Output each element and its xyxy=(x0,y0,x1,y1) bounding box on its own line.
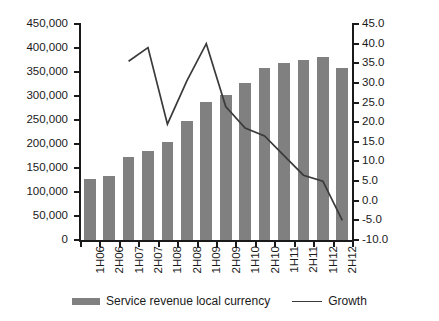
legend-label-growth: Growth xyxy=(328,294,367,308)
x-axis-label-2H10: 2H10 xyxy=(270,246,282,286)
right-axis-tick xyxy=(353,200,359,202)
left-axis-tick-label: 50,000 xyxy=(33,210,68,222)
legend-label-service-revenue: Service revenue local currency xyxy=(106,294,270,308)
left-axis-tick-label: 100,000 xyxy=(26,186,68,198)
x-axis-label-1H07: 1H07 xyxy=(134,246,146,286)
right-axis-tick-label: 5.0 xyxy=(362,175,378,187)
left-axis-tick-label: 250,000 xyxy=(26,114,68,126)
right-axis-tick-label: -10.0 xyxy=(362,234,388,246)
line-swatch-icon xyxy=(292,301,322,302)
right-axis-line xyxy=(352,23,354,241)
x-axis-label-1H09: 1H09 xyxy=(211,246,223,286)
x-axis-label-2H11: 2H11 xyxy=(308,246,320,286)
right-axis-tick xyxy=(353,102,359,104)
right-axis-tick-label: 30.0 xyxy=(362,77,384,89)
left-axis-tick-label: 0 xyxy=(62,234,68,246)
right-axis-tick xyxy=(353,141,359,143)
x-axis-label-1H10: 1H10 xyxy=(250,246,262,286)
x-axis-label-2H08: 2H08 xyxy=(192,246,204,286)
right-axis-tick xyxy=(353,82,359,84)
right-axis-tick-label: -5.0 xyxy=(362,214,382,226)
right-axis-tick-label: 10.0 xyxy=(362,155,384,167)
chart-legend: Service revenue local currency Growth xyxy=(0,294,439,308)
right-axis-tick xyxy=(353,43,359,45)
right-axis-tick-label: 40.0 xyxy=(362,38,384,50)
left-axis-tick-label: 450,000 xyxy=(26,18,68,30)
right-axis-tick xyxy=(353,160,359,162)
x-axis-tick xyxy=(80,242,82,247)
right-axis-tick xyxy=(353,239,359,241)
right-axis-tick-label: 15.0 xyxy=(362,136,384,148)
left-axis-tick-label: 150,000 xyxy=(26,162,68,174)
right-axis-tick-label: 35.0 xyxy=(362,57,384,69)
x-axis-label-1H12: 1H12 xyxy=(328,246,340,286)
left-axis-tick-label: 350,000 xyxy=(26,66,68,78)
left-axis-tick-label: 300,000 xyxy=(26,90,68,102)
x-axis-label-2H12: 2H12 xyxy=(347,246,359,286)
growth-line-series xyxy=(80,24,352,240)
right-axis-tick xyxy=(353,180,359,182)
plot-area xyxy=(80,24,352,240)
right-axis-tick-label: 0.0 xyxy=(362,195,378,207)
left-axis-tick-label: 200,000 xyxy=(26,138,68,150)
x-axis-label-2H06: 2H06 xyxy=(114,246,126,286)
right-axis-tick-label: 25.0 xyxy=(362,97,384,109)
right-axis-tick xyxy=(353,62,359,64)
right-axis-tick xyxy=(353,23,359,25)
x-axis-label-1H11: 1H11 xyxy=(289,246,301,286)
left-axis-tick-label: 400,000 xyxy=(26,42,68,54)
x-axis-label-1H08: 1H08 xyxy=(172,246,184,286)
chart-container: 050,000100,000150,000200,000250,000300,0… xyxy=(0,0,439,321)
bar-swatch-icon xyxy=(72,298,100,305)
right-axis-tick-label: 45.0 xyxy=(362,18,384,30)
legend-item-growth: Growth xyxy=(292,294,367,308)
x-axis-label-1H06: 1H06 xyxy=(95,246,107,286)
legend-item-service-revenue: Service revenue local currency xyxy=(72,294,270,308)
right-axis-tick xyxy=(353,219,359,221)
growth-polyline xyxy=(129,44,343,221)
right-axis-tick xyxy=(353,121,359,123)
x-axis-label-2H07: 2H07 xyxy=(153,246,165,286)
x-axis-label-2H09: 2H09 xyxy=(231,246,243,286)
right-axis-tick-label: 20.0 xyxy=(362,116,384,128)
